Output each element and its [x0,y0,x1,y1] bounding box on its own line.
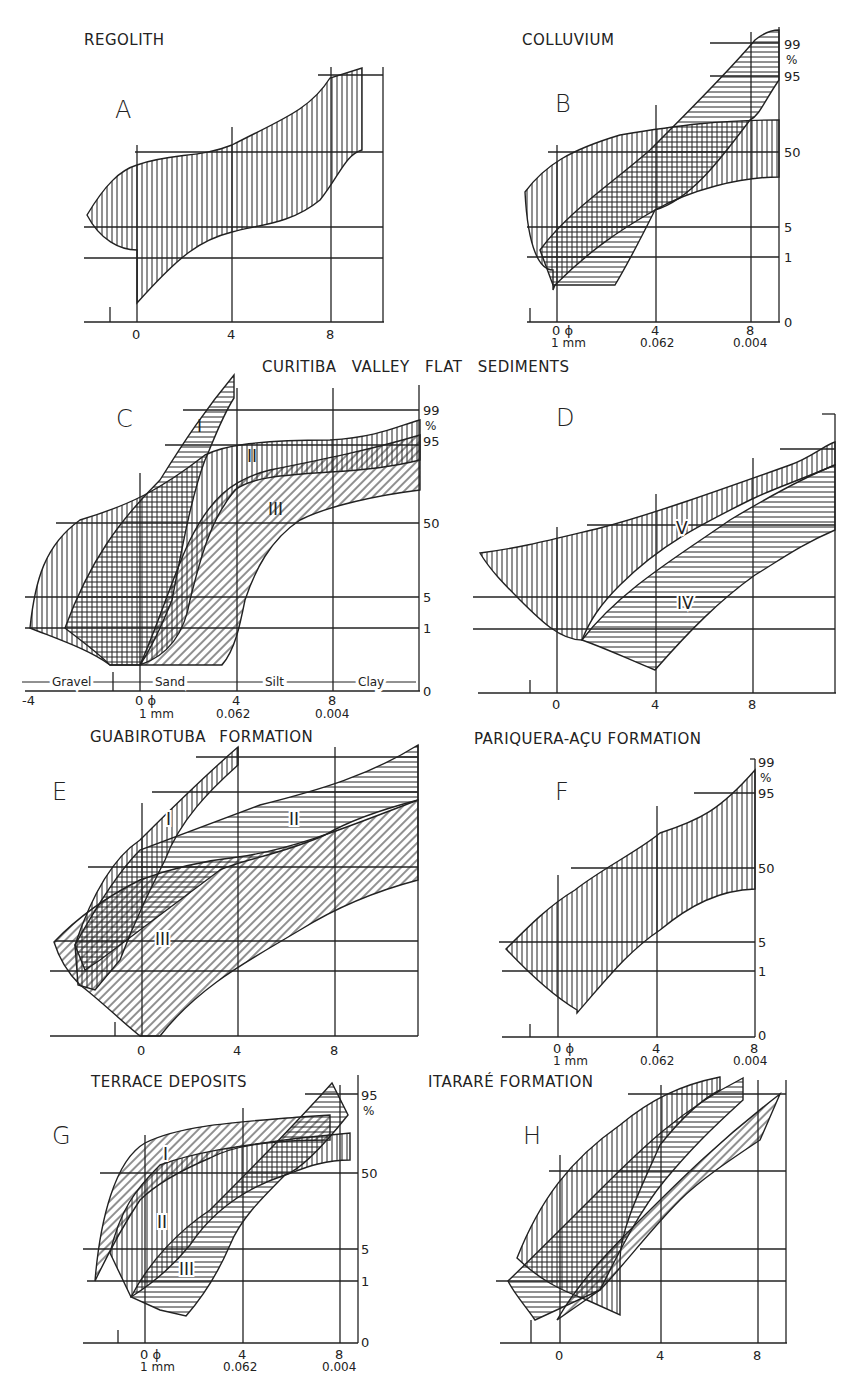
panel-e-letter: E [52,778,67,806]
panel-b-ytick-1: 1 [784,250,792,265]
panel-a: REGOLITH A 0 4 8 [84,31,384,342]
panel-c-ytick-0: 0 [423,684,431,699]
panel-b-xsub-0062: 0.062 [640,336,674,350]
panel-g-ytick-5: 5 [361,1242,369,1257]
panel-c-xtick-neg4: -4 [22,693,35,708]
class-clay: Clay [358,675,384,689]
class-silt: Silt [265,675,284,689]
panel-f-ytick-1: 1 [758,964,766,979]
panel-h: ITARARÉ FORMATION H 0 4 8 [428,1072,787,1363]
panel-a-xtick-8: 8 [326,327,334,342]
curitiba-label-iii: III [268,499,283,519]
panel-c-xtick-0: 0 ϕ [135,693,156,708]
panel-f-ytick-99: 99 [758,755,775,770]
panel-f-title: PARIQUERA-AÇU FORMATION [474,730,702,748]
panel-d-xtick-0: 0 [552,697,560,712]
panel-g-ytick-pct: % [363,1104,374,1118]
panel-c-xsub-1mm: 1 mm [139,707,174,721]
panel-g-xsub-0004: 0.004 [322,1360,356,1374]
panel-b-letter: B [555,90,571,118]
panel-c-xtick-4: 4 [232,693,240,708]
curitiba-label-i: I [197,416,202,436]
panel-a-title: REGOLITH [84,31,165,49]
pariquera-envelope [506,770,755,1013]
panel-b-ytick-pct: % [786,53,797,67]
panel-f-ytick-pct: % [760,771,771,785]
panel-b-title: COLLUVIUM [522,31,614,49]
panel-b-ytick-5: 5 [784,220,792,235]
group-title: CURITIBA VALLEY FLAT SEDIMENTS [262,358,570,376]
panel-d-xtick-8: 8 [748,697,756,712]
panel-b-ytick-99: 99 [784,37,801,52]
panel-c-ytick-5: 5 [423,590,431,605]
panel-a-letter: A [115,96,131,124]
panel-f-ytick-0: 0 [758,1028,766,1043]
panel-e-xtick-4: 4 [233,1043,241,1058]
panel-g-letter: G [52,1122,71,1150]
panel-g-ytick-1: 1 [361,1274,369,1289]
panel-f-xsub-0004: 0.004 [733,1054,767,1068]
panel-c-ytick-pct: % [425,419,436,433]
panel-g-ytick-95: 95 [361,1088,378,1103]
d-label-v: V [676,518,688,538]
panel-c-ytick-50: 50 [423,516,440,531]
panel-g: TERRACE DEPOSITS G I II III 95 % 50 5 1 … [52,1073,378,1374]
panel-c-letter: C [116,405,133,433]
panel-c: C I II III Gravel Sand Silt Clay 99 % [22,375,440,721]
panel-b: COLLUVIUM B 99 % 95 50 5 1 0 0 ϕ 4 8 1 m… [522,27,801,350]
class-gravel: Gravel [52,675,91,689]
panel-b-xsub-0004: 0.004 [733,336,767,350]
panel-b-ytick-95: 95 [784,69,801,84]
panel-f-xsub-1mm: 1 mm [553,1054,588,1068]
panel-c-xsub-0062: 0.062 [216,707,250,721]
panel-c-ytick-1: 1 [423,621,431,636]
terrace-label-iii: III [179,1259,194,1279]
panel-a-xtick-4: 4 [227,327,235,342]
panel-c-xtick-8: 8 [328,693,336,708]
panel-f-ytick-5: 5 [758,935,766,950]
panel-c-ytick-95: 95 [423,434,440,449]
panel-b-xsub-1mm: 1 mm [551,336,586,350]
size-class-bar: Gravel Sand Silt Clay [22,675,416,689]
guabirotuba-label-iii: III [155,929,170,949]
panel-b-ytick-0: 0 [784,315,792,330]
curitiba-label-ii: II [247,446,257,466]
panel-c-ytick-99: 99 [423,403,440,418]
terrace-label-ii: II [157,1212,167,1232]
d-label-iv: IV [677,593,694,613]
guabirotuba-label-ii: II [289,809,299,829]
guabirotuba-label-i: I [166,809,171,829]
panel-e-xtick-8: 8 [330,1043,338,1058]
panel-f-ytick-50: 50 [758,861,775,876]
panel-h-title: ITARARÉ FORMATION [428,1072,593,1091]
panel-h-letter: H [523,1122,541,1150]
panel-h-xtick-4: 4 [656,1348,664,1363]
panel-g-title: TERRACE DEPOSITS [90,1073,247,1091]
terrace-label-i: I [163,1144,168,1164]
panel-a-xtick-0: 0 [132,327,140,342]
panel-e-title: GUABIROTUBA FORMATION [90,728,313,746]
panel-e-xtick-0: 0 [137,1043,145,1058]
panel-h-xtick-0: 0 [555,1348,563,1363]
panel-e: GUABIROTUBA FORMATION E I II III 0 4 8 [50,728,418,1058]
panel-g-xsub-0062: 0.062 [223,1360,257,1374]
class-sand: Sand [155,675,185,689]
panel-b-ytick-50: 50 [784,145,801,160]
panel-g-ytick-0: 0 [361,1335,369,1350]
panel-d-letter: D [556,404,574,432]
panel-h-xtick-8: 8 [753,1348,761,1363]
panel-f-ytick-95: 95 [758,786,775,801]
panel-g-ytick-50: 50 [361,1166,378,1181]
panel-f-letter: F [555,778,569,806]
panel-f-xsub-0062: 0.062 [640,1054,674,1068]
panel-c-xsub-0004: 0.004 [315,707,349,721]
panel-d: D V IV 0 4 8 [473,404,836,712]
panel-f: PARIQUERA-AÇU FORMATION F 99 % 95 50 5 1… [474,730,775,1068]
panel-g-xsub-1mm: 1 mm [140,1360,175,1374]
itarare-band-2 [508,1078,743,1320]
figure-canvas: REGOLITH A 0 4 8 COLLUVIUM B [0,0,847,1389]
panel-d-xtick-4: 4 [651,697,659,712]
